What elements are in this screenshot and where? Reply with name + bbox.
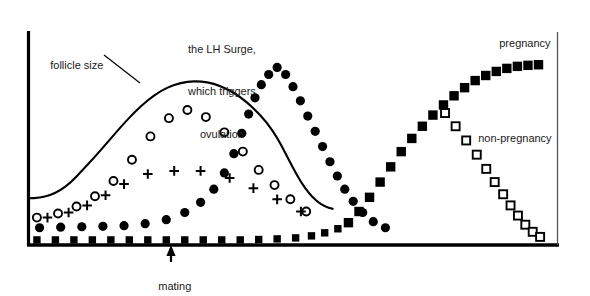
- data-point: [452, 122, 460, 130]
- data-point: [33, 214, 41, 222]
- data-point: [303, 111, 312, 120]
- data-point: [52, 236, 59, 243]
- data-point: [163, 236, 170, 243]
- data-point: [255, 236, 262, 243]
- series-fsh: [43, 166, 306, 222]
- annotation-pregnancy: pregnancy: [487, 22, 551, 64]
- data-point: [91, 192, 99, 200]
- data-point: [492, 67, 501, 76]
- data-point: [507, 201, 515, 209]
- data-point: [482, 165, 490, 173]
- data-point: [375, 177, 384, 186]
- data-point: [502, 64, 511, 73]
- data-point: [209, 185, 218, 194]
- data-point: [181, 236, 188, 243]
- data-point: [273, 63, 282, 72]
- lh-surge-label-line2: which triggers: [188, 84, 256, 98]
- data-point: [107, 236, 114, 243]
- follicle-size-leader-line: [104, 55, 140, 83]
- annotation-non-pregnancy: non-pregnancy: [466, 117, 552, 159]
- data-point: [407, 134, 416, 143]
- data-point: [119, 179, 129, 189]
- data-point: [514, 212, 522, 220]
- data-point: [200, 236, 207, 243]
- data-point: [33, 236, 40, 243]
- data-point: [162, 215, 171, 224]
- data-point: [165, 114, 173, 122]
- data-point: [126, 236, 133, 243]
- data-point: [418, 122, 427, 131]
- data-point: [271, 181, 279, 189]
- data-point: [318, 142, 327, 151]
- data-point: [333, 171, 342, 180]
- data-point: [381, 223, 390, 232]
- data-point: [264, 70, 273, 79]
- data-point: [98, 222, 107, 231]
- data-point: [220, 168, 229, 177]
- data-point: [344, 218, 353, 227]
- data-point: [54, 210, 62, 218]
- data-point: [257, 80, 266, 89]
- lh-surge-label-line3: ovulation: [188, 127, 256, 141]
- data-point: [441, 109, 449, 117]
- data-point: [499, 190, 507, 198]
- mating-arrow: [166, 245, 175, 262]
- data-point: [369, 217, 378, 226]
- data-point: [340, 185, 349, 194]
- annotation-follicle-size: follicle size: [38, 44, 103, 86]
- data-point: [334, 225, 341, 232]
- non-pregnancy-label-text: non-pregnancy: [478, 132, 551, 144]
- follicle-size-label-text: follicle size: [50, 59, 103, 71]
- data-point: [288, 82, 297, 91]
- data-point: [237, 236, 244, 243]
- data-point: [308, 232, 315, 239]
- data-point: [143, 169, 153, 179]
- data-point: [180, 208, 189, 217]
- data-point: [73, 202, 81, 210]
- data-point: [35, 223, 44, 232]
- data-point: [141, 219, 150, 228]
- data-point: [292, 234, 299, 241]
- data-point: [281, 70, 290, 79]
- series-follicle-size: [29, 81, 333, 209]
- data-point: [296, 96, 305, 105]
- data-point: [169, 166, 179, 176]
- data-point: [249, 183, 259, 193]
- data-point: [56, 223, 65, 232]
- data-point: [460, 83, 469, 92]
- data-point: [428, 110, 437, 119]
- data-point: [354, 207, 363, 216]
- data-point: [146, 132, 154, 140]
- data-point: [82, 201, 92, 211]
- mating-label-text: mating: [158, 280, 191, 292]
- data-point: [349, 197, 358, 206]
- pregnancy-label-text: pregnancy: [499, 37, 550, 49]
- data-point: [397, 147, 406, 156]
- data-point: [89, 236, 96, 243]
- data-point: [101, 190, 111, 200]
- data-point: [109, 177, 117, 185]
- data-point: [272, 195, 282, 205]
- data-point: [119, 221, 128, 230]
- data-point: [470, 76, 479, 85]
- data-point: [325, 157, 334, 166]
- data-point: [64, 208, 74, 218]
- data-point: [218, 236, 225, 243]
- data-point: [43, 213, 53, 223]
- data-point: [365, 193, 374, 202]
- data-point: [196, 198, 205, 207]
- data-point: [286, 195, 294, 203]
- data-point: [491, 178, 499, 186]
- data-point: [536, 233, 544, 241]
- follicle-size-curve: [29, 81, 333, 209]
- annotation-mating: mating: [146, 265, 191, 296]
- data-point: [386, 162, 395, 171]
- data-point: [128, 156, 136, 164]
- data-point: [321, 229, 328, 236]
- lh-surge-label-line1: the LH Surge,: [188, 42, 256, 56]
- data-point: [255, 166, 263, 174]
- data-point: [70, 236, 77, 243]
- data-point: [273, 235, 280, 242]
- data-point: [481, 71, 490, 80]
